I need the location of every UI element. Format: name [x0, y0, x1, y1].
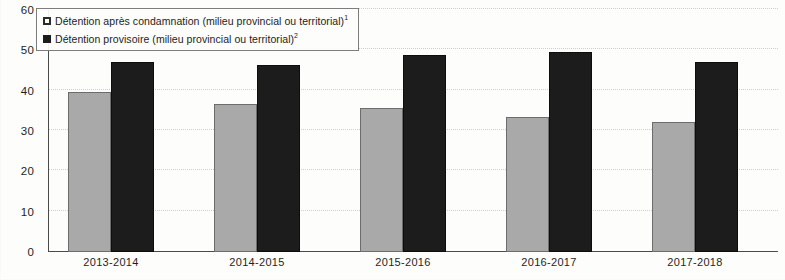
legend-label-1-text: Détention provisoire (milieu provincial …	[55, 33, 294, 45]
legend-item-detention-provisoire: Détention provisoire (milieu provincial …	[43, 31, 348, 46]
y-axis-tick-label: 30	[0, 125, 34, 137]
y-axis-tick-label: 0	[0, 246, 34, 258]
hollow-square-marker-icon	[43, 17, 51, 25]
y-axis-tick-label: 10	[0, 206, 34, 218]
legend-label-1-footnote: 2	[294, 32, 298, 39]
x-axis-tick-label: 2015-2016	[375, 256, 430, 268]
bar-group	[340, 10, 486, 252]
y-axis-labels: 0102030405060	[0, 10, 40, 252]
y-axis-tick-label: 20	[0, 165, 34, 177]
legend-label-0-text: Détention après condamnation (milieu pro…	[55, 15, 344, 27]
legend-label-0: Détention après condamnation (milieu pro…	[55, 14, 348, 27]
x-axis-labels: 2013-20142014-20152015-20162016-20172017…	[48, 256, 778, 278]
bar-detention-provisoire	[111, 62, 154, 252]
legend-label-0-footnote: 1	[344, 14, 348, 21]
bar-detention-provisoire	[549, 52, 592, 252]
bar-chart: 0102030405060 2013-20142014-20152015-201…	[0, 0, 785, 280]
bar-detention-provisoire	[695, 62, 738, 252]
bar-detention-apres-condamnation	[652, 122, 695, 252]
x-axis-tick-label: 2013-2014	[83, 256, 138, 268]
legend-label-1: Détention provisoire (milieu provincial …	[55, 32, 298, 45]
bar-detention-apres-condamnation	[68, 92, 111, 252]
bar-detention-apres-condamnation	[360, 108, 403, 252]
y-axis-tick-label: 50	[0, 44, 34, 56]
legend-item-detention-apres-condamnation: Détention après condamnation (milieu pro…	[43, 13, 348, 28]
x-axis-tick-label: 2016-2017	[521, 256, 576, 268]
filled-square-marker-icon	[43, 35, 51, 43]
bar-detention-apres-condamnation	[214, 104, 257, 252]
bar-detention-provisoire	[257, 65, 300, 252]
bar-group	[632, 10, 778, 252]
x-axis-tick-label: 2017-2018	[667, 256, 722, 268]
bar-group	[486, 10, 632, 252]
bar-detention-apres-condamnation	[506, 117, 549, 252]
x-axis-tick-label: 2014-2015	[229, 256, 284, 268]
y-axis-tick-label: 40	[0, 85, 34, 97]
y-axis-tick-label: 60	[0, 4, 34, 16]
chart-legend: Détention après condamnation (milieu pro…	[36, 8, 359, 51]
bar-detention-provisoire	[403, 55, 446, 252]
